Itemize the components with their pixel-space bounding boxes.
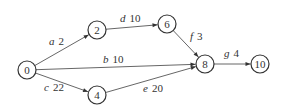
- edge-name: f: [190, 30, 195, 42]
- edge-weight: 10: [113, 53, 125, 65]
- node-label: 6: [164, 18, 170, 30]
- edge-label-a: a2: [49, 35, 64, 47]
- edge-name: d: [120, 12, 126, 24]
- node-6: 6: [158, 15, 176, 33]
- node-8: 8: [196, 55, 214, 73]
- edge-weight: 20: [152, 82, 164, 94]
- edge-arrow-line: [106, 25, 158, 29]
- edge-label-c: c22: [44, 81, 64, 93]
- node-10: 10: [251, 55, 269, 73]
- node-label: 0: [24, 64, 30, 76]
- edge-weight: 22: [53, 81, 64, 93]
- edge-arrow-line: [173, 31, 198, 58]
- edge-b: [36, 64, 196, 69]
- edge-weight: 2: [59, 35, 65, 47]
- edge-weight: 4: [234, 47, 240, 59]
- edge-d: [106, 25, 158, 29]
- edge-f: [173, 31, 198, 58]
- network-diagram: a2b10c22d10e20f3g4 0246810: [0, 0, 283, 109]
- edge-weight: 3: [197, 30, 203, 42]
- edge-label-f: f3: [190, 30, 203, 42]
- edge-arrow-line: [106, 67, 196, 93]
- edge-name: e: [143, 82, 148, 94]
- node-label: 8: [202, 58, 208, 70]
- edge-name: b: [103, 53, 109, 65]
- node-label: 2: [94, 24, 100, 36]
- node-label: 10: [255, 58, 267, 70]
- edge-label-d: d10: [120, 12, 141, 24]
- edge-label-g: g4: [224, 47, 240, 59]
- node-label: 4: [94, 89, 100, 101]
- node-2: 2: [88, 21, 106, 39]
- edge-label-b: b10: [103, 53, 124, 65]
- edge-arrow-line: [36, 64, 196, 69]
- edge-weight: 10: [130, 12, 142, 24]
- edge-name: c: [44, 81, 49, 93]
- edge-name: a: [49, 35, 55, 47]
- edge-e: [106, 67, 196, 93]
- node-4: 4: [88, 86, 106, 104]
- edge-name: g: [224, 47, 230, 59]
- edge-label-e: e20: [143, 82, 163, 94]
- node-0: 0: [18, 61, 36, 79]
